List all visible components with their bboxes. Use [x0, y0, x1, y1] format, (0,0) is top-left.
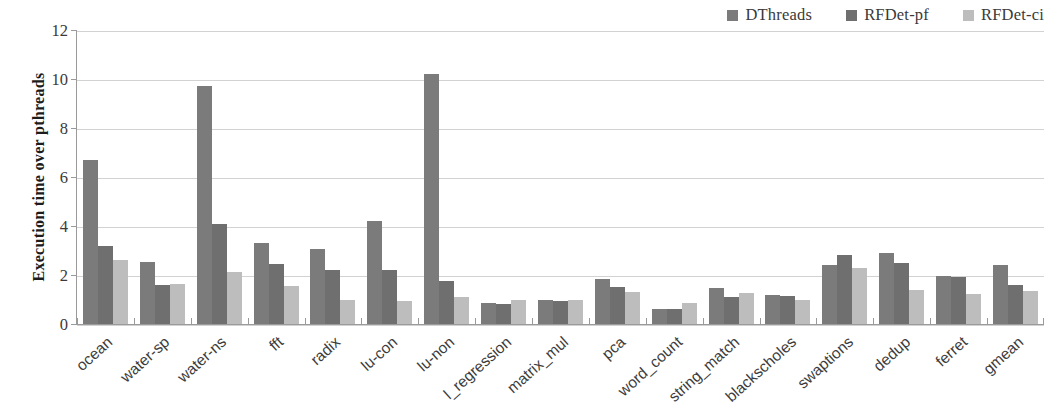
- bar-group: [418, 31, 475, 324]
- x-label-cell: water-ns: [190, 327, 247, 416]
- bar-group: [987, 31, 1044, 324]
- x-label-cell: matrix_mul: [532, 327, 589, 416]
- bar: [993, 265, 1008, 324]
- legend-swatch-rfdet-ci: [963, 10, 974, 21]
- x-axis-label: radix: [307, 333, 344, 369]
- x-tick-mark: [760, 318, 761, 324]
- bar-group: [816, 31, 873, 324]
- x-axis-label: lu-non: [414, 333, 458, 375]
- x-tick-mark: [930, 318, 931, 324]
- x-label-cell: radix: [304, 327, 361, 416]
- x-axis-label: ferret: [932, 333, 971, 371]
- bar: [113, 260, 128, 324]
- legend-label-dthreads: DThreads: [745, 5, 812, 25]
- gridline: [77, 325, 1044, 326]
- bar-group: [248, 31, 305, 324]
- bar: [310, 249, 325, 324]
- bar: [709, 288, 724, 324]
- bar-group: [930, 31, 987, 324]
- x-tick-mark: [589, 318, 590, 324]
- chart-legend: DThreads RFDet-pf RFDet-ci: [727, 4, 1044, 26]
- bar-group: [77, 31, 134, 324]
- bar: [739, 293, 754, 324]
- bar: [269, 264, 284, 324]
- x-axis-label: gmean: [980, 333, 1027, 378]
- bar: [822, 265, 837, 324]
- bar: [667, 309, 682, 324]
- x-tick-mark: [305, 318, 306, 324]
- bar-group: [532, 31, 589, 324]
- bar: [254, 243, 269, 324]
- legend-entry-rfdet-pf: RFDet-pf: [846, 5, 929, 25]
- bar: [625, 292, 640, 324]
- x-tick-mark: [532, 318, 533, 324]
- bar: [837, 255, 852, 324]
- bar: [682, 303, 697, 324]
- bar-group: [873, 31, 930, 324]
- bar: [197, 86, 212, 324]
- legend-swatch-rfdet-pf: [846, 10, 857, 21]
- bar: [511, 300, 526, 325]
- bar: [595, 279, 610, 324]
- bar: [795, 300, 810, 325]
- y-tick-label: 4: [60, 217, 68, 237]
- x-tick-mark: [77, 318, 78, 324]
- x-tick-mark: [987, 318, 988, 324]
- x-axis-label: ocean: [73, 333, 116, 375]
- bar-group: [305, 31, 362, 324]
- bar: [170, 284, 185, 324]
- bar: [951, 277, 966, 324]
- x-label-cell: ferret: [930, 327, 987, 416]
- bar: [325, 270, 340, 324]
- bar-group: [134, 31, 191, 324]
- bar: [852, 268, 867, 324]
- x-axis-label: pca: [598, 333, 629, 363]
- bar: [481, 303, 496, 324]
- bar: [894, 263, 909, 324]
- x-tick-mark: [134, 318, 135, 324]
- bar: [879, 253, 894, 324]
- x-tick-mark: [646, 318, 647, 324]
- y-tick-label: 10: [52, 70, 69, 90]
- bar: [966, 294, 981, 324]
- y-tick-label: 2: [60, 266, 68, 286]
- bar: [936, 276, 951, 324]
- bar: [439, 281, 454, 324]
- bar: [568, 300, 583, 324]
- y-tick-label: 6: [60, 168, 68, 188]
- plot-area: 024681012: [76, 31, 1044, 325]
- x-axis-label: lu-con: [358, 333, 401, 375]
- x-label-cell: dedup: [873, 327, 930, 416]
- x-tick-mark: [1043, 318, 1044, 324]
- bar: [553, 301, 568, 324]
- y-tick-label: 8: [60, 119, 68, 139]
- bar-group: [361, 31, 418, 324]
- bar: [155, 285, 170, 324]
- bar: [1008, 285, 1023, 324]
- bar: [140, 262, 155, 324]
- bar: [212, 224, 227, 324]
- bar: [227, 272, 242, 324]
- y-tick-label: 12: [52, 21, 69, 41]
- x-axis-label: fft: [266, 333, 287, 355]
- x-tick-mark: [361, 318, 362, 324]
- x-axis-labels: oceanwater-spwater-nsfftradixlu-conlu-no…: [76, 327, 1044, 416]
- x-label-cell: lu-con: [361, 327, 418, 416]
- y-tick-mark: [71, 324, 77, 325]
- legend-label-rfdet-ci: RFDet-ci: [981, 5, 1044, 25]
- bar-group: [191, 31, 248, 324]
- bar: [424, 74, 439, 324]
- x-tick-mark: [816, 318, 817, 324]
- bar-chart: DThreads RFDet-pf RFDet-ci Execution tim…: [0, 0, 1052, 416]
- bar: [382, 270, 397, 324]
- bar: [98, 246, 113, 324]
- bar: [538, 300, 553, 324]
- legend-label-rfdet-pf: RFDet-pf: [864, 5, 929, 25]
- x-label-cell: fft: [247, 327, 304, 416]
- bar: [1023, 291, 1038, 324]
- bar: [652, 309, 667, 324]
- bar: [83, 160, 98, 324]
- x-tick-mark: [475, 318, 476, 324]
- legend-entry-rfdet-ci: RFDet-ci: [963, 5, 1044, 25]
- legend-entry-dthreads: DThreads: [727, 5, 812, 25]
